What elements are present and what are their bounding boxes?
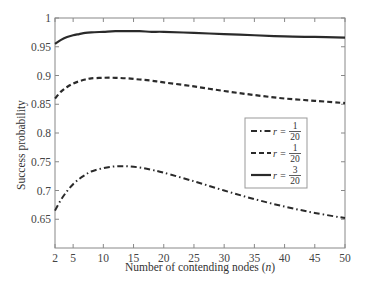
y-tick-label: 0.7 bbox=[37, 185, 52, 197]
y-axis-title: Success probability bbox=[15, 100, 28, 190]
line-chart: 0.650.70.750.80.850.90.951 2510152025303… bbox=[0, 0, 366, 295]
x-tick-label: 45 bbox=[309, 252, 321, 264]
legend-denominator: 20 bbox=[290, 176, 300, 186]
x-tick-label: 10 bbox=[98, 252, 110, 264]
legend: r =120r =120r =320 bbox=[245, 118, 307, 188]
y-tick-label: 0.9 bbox=[37, 70, 52, 82]
x-axis-title: Number of contending nodes (n) bbox=[125, 261, 275, 274]
x-tick-label: 5 bbox=[70, 252, 76, 264]
legend-numerator: 1 bbox=[293, 143, 298, 153]
y-tick-label: 1 bbox=[45, 12, 51, 24]
x-tick-label: 40 bbox=[279, 252, 291, 264]
legend-denominator: 20 bbox=[290, 132, 300, 142]
legend-label: r = bbox=[273, 126, 286, 137]
y-tick-label: 0.85 bbox=[31, 98, 51, 110]
y-tick-label: 0.8 bbox=[37, 127, 52, 139]
y-tick-label: 0.65 bbox=[31, 213, 51, 225]
legend-numerator: 3 bbox=[293, 165, 298, 175]
legend-numerator: 1 bbox=[293, 121, 298, 131]
y-tick-label: 0.75 bbox=[31, 156, 51, 168]
x-tick-label: 50 bbox=[339, 252, 351, 264]
legend-denominator: 20 bbox=[290, 154, 300, 164]
x-tick-label: 2 bbox=[52, 252, 58, 264]
y-tick-label: 0.95 bbox=[31, 41, 51, 53]
legend-label: r = bbox=[273, 148, 286, 159]
legend-label: r = bbox=[273, 170, 286, 181]
